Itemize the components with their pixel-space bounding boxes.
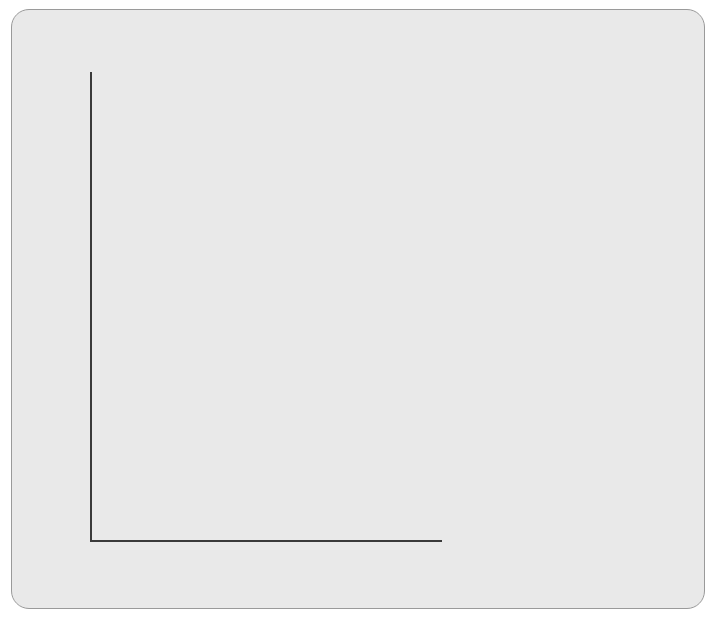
y-axis-line <box>90 72 92 540</box>
plot-area <box>90 72 442 540</box>
chart-panel <box>11 9 705 609</box>
x-axis-line <box>90 540 442 542</box>
